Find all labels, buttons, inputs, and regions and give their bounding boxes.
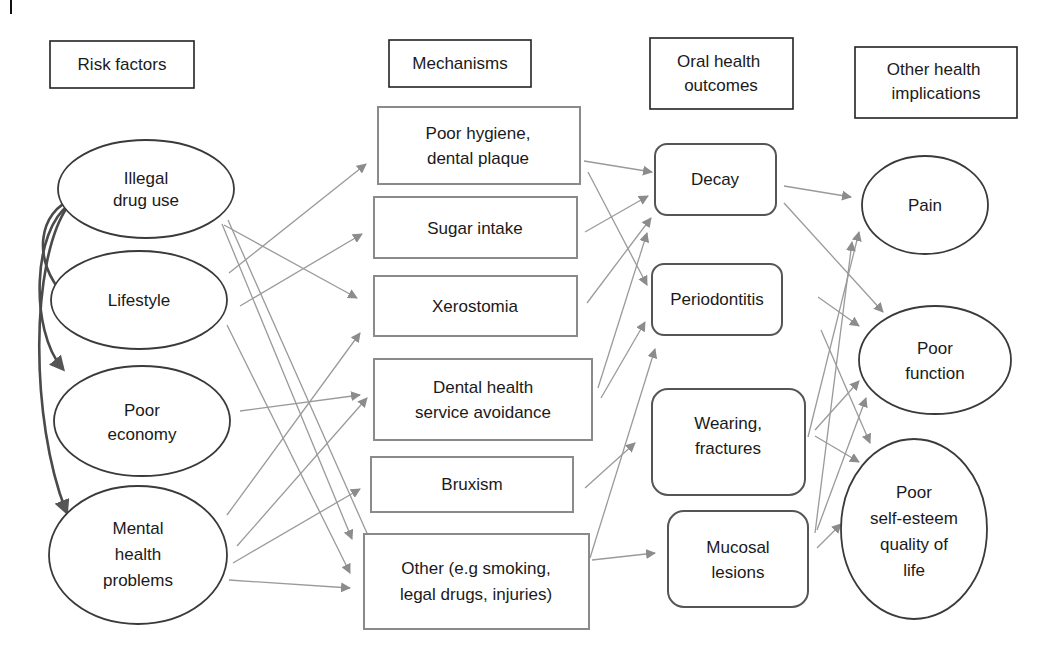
mechanism-poor-hygiene: Poor hygiene,dental plaque [378,107,580,184]
header-oral-health-outcomes: Oral health outcomes [650,38,793,109]
mechanism-bruxism: Bruxism [371,457,573,512]
risk-factor-poor-economy: Pooreconomy [54,366,230,476]
mechanism-other: Other (e.g smoking,legal drugs, injuries… [364,534,589,629]
thick-arrows-illegal-drug-use [39,200,72,511]
header-mechanisms: Mechanisms [389,40,531,87]
implication-poor-self-esteem: Poorself-esteemquality oflife [841,439,987,619]
svg-text:Xerostomia: Xerostomia [432,297,519,316]
edges-risk-to-mechanism [222,164,382,588]
mechanism-xerostomia: Xerostomia [374,276,577,336]
svg-text:Periodontitis: Periodontitis [670,290,764,309]
outcome-mucosal-lesions: Mucosallesions [668,511,808,607]
svg-text:Bruxism: Bruxism [441,475,502,494]
svg-text:Sugar intake: Sugar intake [427,219,522,238]
mechanism-dental-service-avoidance: Dental healthservice avoidance [374,359,592,440]
outcome-decay: Decay [655,144,776,215]
header-other-health-implications: Other health implications [855,47,1017,118]
outcome-wearing-fractures: Wearing,fractures [652,389,805,495]
mechanism-sugar-intake: Sugar intake [374,197,577,258]
risk-factor-lifestyle: Lifestyle [51,251,227,349]
oral-health-pathway-diagram: Risk factors Mechanisms Oral health outc… [0,0,1046,657]
svg-text:Pain: Pain [908,196,942,215]
risk-factor-illegal-drug-use: Illegaldrug use [58,140,234,238]
header-risk-factors: Risk factors [50,41,194,88]
svg-text:Lifestyle: Lifestyle [108,291,170,310]
header-risk-factors-label: Risk factors [78,55,167,74]
edges-mechanism-to-outcome [584,161,655,560]
risk-factor-mental-health-problems: Mentalhealthproblems [49,486,227,624]
implication-poor-function: Poorfunction [859,306,1011,414]
implication-pain: Pain [862,156,988,254]
svg-text:Decay: Decay [691,170,740,189]
outcome-periodontitis: Periodontitis [652,264,782,335]
header-mechanisms-label: Mechanisms [412,54,507,73]
